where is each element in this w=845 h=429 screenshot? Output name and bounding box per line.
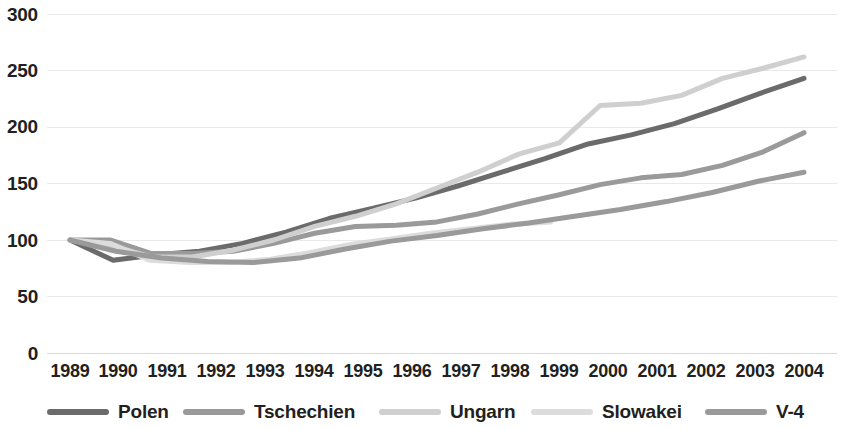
legend-label-ungarn: Ungarn [450, 402, 515, 421]
x-tick-label: 1991 [148, 362, 187, 380]
y-tick-label: 0 [28, 344, 38, 363]
x-tick-label: 1996 [393, 362, 432, 380]
x-tick-label: 2000 [589, 362, 628, 380]
x-tick-label: 1992 [197, 362, 236, 380]
legend-item-v4[interactable]: V-4 [705, 394, 804, 429]
x-tick-label: 2004 [785, 362, 824, 380]
legend-item-polen[interactable]: Polen [47, 394, 169, 429]
chart-legend: Polen Tschechien Ungarn Slowakei V-4 [0, 394, 845, 429]
series-lines [47, 8, 837, 356]
x-tick-label: 1990 [99, 362, 138, 380]
plot-area [47, 8, 837, 356]
x-tick-label: 1989 [51, 362, 90, 380]
legend-label-polen: Polen [118, 402, 169, 421]
legend-label-v4: V-4 [776, 402, 804, 421]
legend-item-tschechien[interactable]: Tschechien [183, 394, 355, 429]
y-tick-label: 50 [17, 287, 38, 306]
legend-item-slowakei[interactable]: Slowakei [531, 394, 682, 429]
legend-item-ungarn[interactable]: Ungarn [379, 394, 515, 429]
x-tick-label: 1998 [491, 362, 530, 380]
legend-label-slowakei: Slowakei [602, 402, 682, 421]
y-tick-label: 300 [7, 5, 38, 24]
legend-swatch-ungarn [379, 409, 441, 415]
x-tick-label: 1995 [344, 362, 383, 380]
legend-label-tschechien: Tschechien [254, 402, 355, 421]
y-axis: 300 250 200 150 100 50 0 [0, 0, 44, 364]
line-chart: 300 250 200 150 100 50 0 1989 1990 1991 … [0, 0, 845, 429]
y-tick-label: 250 [7, 61, 38, 80]
x-tick-label: 1997 [442, 362, 481, 380]
x-tick-label: 1999 [540, 362, 579, 380]
y-tick-label: 100 [7, 231, 38, 250]
series-line-ungarn [70, 57, 804, 257]
y-tick-label: 200 [7, 117, 38, 136]
x-tick-label: 2002 [687, 362, 726, 380]
x-tick-label: 1993 [246, 362, 285, 380]
y-tick-label: 150 [7, 174, 38, 193]
legend-swatch-slowakei [531, 409, 593, 415]
legend-swatch-polen [47, 409, 109, 415]
x-tick-label: 1994 [295, 362, 334, 380]
x-tick-label: 2001 [638, 362, 677, 380]
legend-swatch-tschechien [183, 409, 245, 415]
x-tick-label: 2003 [736, 362, 775, 380]
legend-swatch-v4 [705, 409, 767, 415]
x-axis: 1989 1990 1991 1992 1993 1994 1995 1996 … [47, 360, 837, 388]
